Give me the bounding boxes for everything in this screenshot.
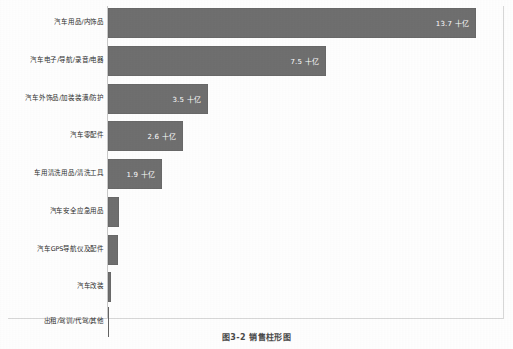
bar-value-label: 7.5 十亿: [290, 56, 326, 66]
bar: 7.5 十亿: [108, 46, 326, 76]
bar-value-label: 13.7 十亿: [436, 18, 476, 28]
bar-row: 汽车外饰品/加装装潢/防护 3.5 十亿: [0, 82, 513, 116]
bar: 2.6 十亿: [108, 121, 183, 151]
bar-track: [108, 233, 118, 267]
figure-caption: 图3-2 销售柱形图: [0, 331, 513, 342]
bar-row: 汽车电子/导航/录音/电器 7.5 十亿: [0, 44, 513, 78]
bar: 1.9 十亿: [108, 159, 162, 189]
bar: [108, 197, 119, 227]
bar-row: 汽车用品/内饰品 13.7 十亿: [0, 6, 513, 40]
category-label: 汽车电子/导航/录音/电器: [8, 57, 104, 64]
bar-track: [108, 270, 111, 304]
bar-row: 汽车零配件 2.6 十亿: [0, 119, 513, 153]
bar: [108, 272, 111, 302]
bar-row: 汽车GPS导航仪及配件: [0, 233, 513, 267]
bar-track: 13.7 十亿: [108, 6, 476, 40]
bar-track: 3.5 十亿: [108, 82, 208, 116]
bar-rows: 汽车用品/内饰品 13.7 十亿 汽车电子/导航/录音/电器 7.5 十亿 汽车…: [0, 6, 513, 318]
category-label: 汽车改装: [8, 283, 104, 290]
category-label: 汽车用品/内饰品: [8, 19, 104, 26]
bar: [108, 235, 118, 265]
bar-value-label: 3.5 十亿: [172, 94, 208, 104]
category-label: 汽车外饰品/加装装潢/防护: [8, 95, 104, 102]
bar-chart: 汽车用品/内饰品 13.7 十亿 汽车电子/导航/录音/电器 7.5 十亿 汽车…: [0, 0, 513, 349]
bar-track: 1.9 十亿: [108, 157, 162, 191]
bar-row: 汽车安全应急用品: [0, 195, 513, 229]
bar-track: 2.6 十亿: [108, 119, 183, 153]
category-label: 汽车GPS导航仪及配件: [8, 246, 104, 253]
bar: 13.7 十亿: [108, 8, 476, 38]
bar: 3.5 十亿: [108, 84, 208, 114]
bar-value-label: 2.6 十亿: [147, 131, 183, 141]
category-label: 汽车零配件: [8, 132, 104, 139]
category-label: 出租/驾训/代驾/其他: [8, 318, 104, 325]
bar-value-label: 1.9 十亿: [126, 169, 162, 179]
bar-track: [108, 195, 119, 229]
category-label: 汽车安全应急用品: [8, 208, 104, 215]
bar-row: 车用清洗用品/清洗工具 1.9 十亿: [0, 157, 513, 191]
bar-track: 7.5 十亿: [108, 44, 326, 78]
bar-row: 汽车改装: [0, 270, 513, 304]
category-label: 车用清洗用品/清洗工具: [8, 170, 104, 177]
